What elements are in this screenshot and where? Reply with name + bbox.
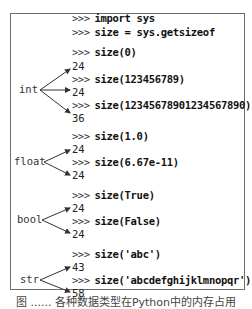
code-output: 24: [72, 228, 85, 241]
code-input: size(123456789): [94, 73, 184, 85]
type-label-int: int: [19, 83, 38, 96]
figure-caption: 图 ...... 各种数据类型在Python中的内存占用: [0, 296, 252, 309]
code-input: size(False): [94, 215, 160, 227]
code-output: 43: [72, 261, 85, 274]
code-line: >>>size(12345678901234567890): [72, 99, 251, 112]
code-input: size(6.67e-11): [94, 156, 178, 168]
code-input: size(0): [94, 46, 136, 58]
code-line: >>>size(123456789): [72, 73, 185, 86]
type-label-float: float: [14, 155, 46, 168]
prompt: >>>: [72, 130, 89, 142]
code-line: >>>size = sys.getsizeof: [72, 26, 215, 39]
prompt: >>>: [72, 274, 89, 286]
prompt: >>>: [72, 26, 89, 38]
code-line: >>>size(6.67e-11): [72, 156, 179, 169]
code-line: >>>size('abc'): [72, 248, 161, 261]
code-output: 24: [72, 86, 85, 99]
code-output: 24: [72, 169, 85, 182]
code-input: import sys: [94, 12, 154, 24]
prompt: >>>: [72, 46, 89, 58]
code-input: size('abcdefghijklmnopqr'): [94, 274, 251, 286]
code-output: 24: [72, 202, 85, 215]
prompt: >>>: [72, 215, 89, 227]
prompt: >>>: [72, 189, 89, 201]
prompt: >>>: [72, 248, 89, 260]
code-output: 24: [72, 143, 85, 156]
code-line: >>>size(False): [72, 215, 161, 228]
type-label-bool: bool: [17, 213, 42, 226]
code-input: size(1.0): [94, 130, 148, 142]
code-line: >>>import sys: [72, 12, 155, 25]
code-input: size(12345678901234567890): [94, 99, 251, 111]
prompt: >>>: [72, 99, 89, 111]
code-input: size(True): [94, 189, 154, 201]
code-input: size('abc'): [94, 248, 160, 260]
code-input: size = sys.getsizeof: [94, 26, 214, 38]
code-output: 36: [72, 112, 85, 125]
type-label-str: str: [20, 273, 39, 286]
code-line: >>>size(0): [72, 46, 137, 59]
code-output: 24: [72, 60, 85, 73]
code-line: >>>size(1.0): [72, 130, 149, 143]
code-line: >>>size(True): [72, 189, 155, 202]
prompt: >>>: [72, 156, 89, 168]
code-line: >>>size('abcdefghijklmnopqr'): [72, 274, 251, 287]
prompt: >>>: [72, 12, 89, 24]
prompt: >>>: [72, 73, 89, 85]
